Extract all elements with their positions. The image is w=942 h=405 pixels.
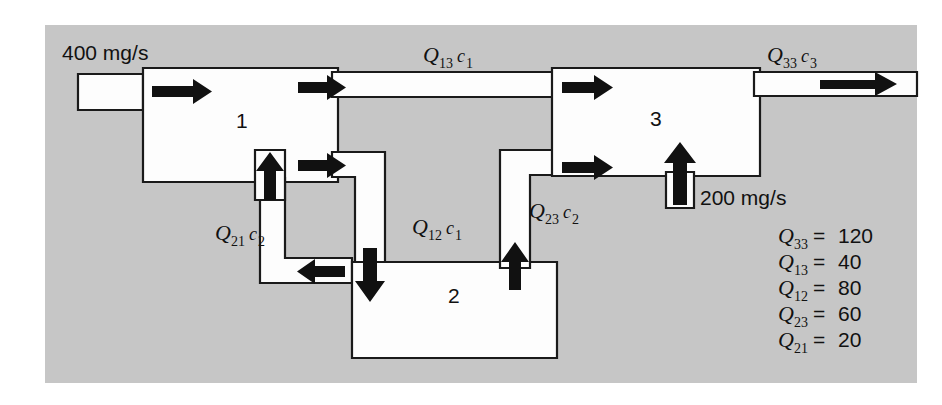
row0-subscript: 33 (794, 237, 808, 252)
row4-subscript: 21 (794, 341, 808, 356)
row3-subscript: 23 (794, 315, 808, 330)
q33-symbol: Q (767, 42, 783, 67)
q33-subscript: 33 (783, 56, 797, 71)
row1-subscript: 13 (794, 263, 808, 278)
row4-equals: = (813, 328, 825, 351)
row3-value: 60 (838, 302, 861, 325)
row0-symbol: Q (778, 223, 794, 248)
row3-equals: = (813, 302, 825, 325)
row2-equals: = (813, 276, 825, 299)
row1-symbol: Q (778, 249, 794, 274)
q21-symbol: Q (215, 220, 231, 245)
q13-c-symbol: c (457, 46, 465, 66)
q21-subscript: 21 (231, 234, 245, 249)
q23-c-symbol: c (563, 202, 571, 222)
row2-subscript: 12 (794, 289, 808, 304)
row1-value: 40 (838, 250, 861, 273)
reactor1-number: 1 (236, 109, 248, 132)
q13-c-subscript: 1 (466, 56, 473, 71)
q33-c-subscript: 3 (810, 56, 817, 71)
reactor3-number: 3 (650, 107, 662, 130)
inflow-reactor1-label: 400 mg/s (62, 41, 148, 64)
row3-symbol: Q (778, 301, 794, 326)
q13-pipe (332, 72, 556, 97)
q33-c-symbol: c (801, 46, 809, 66)
q12-symbol: Q (412, 214, 428, 239)
q23-subscript: 23 (545, 212, 559, 227)
reactor2-number: 2 (448, 284, 460, 307)
row2-value: 80 (838, 276, 861, 299)
q12-c-symbol: c (446, 218, 454, 238)
q12-subscript: 12 (428, 228, 442, 243)
row0-equals: = (813, 224, 825, 247)
q12-c-subscript: 1 (455, 228, 462, 243)
q23-symbol: Q (529, 198, 545, 223)
reactor2-tank (352, 262, 557, 358)
q21-c-subscript: 2 (258, 234, 265, 249)
row2-symbol: Q (778, 275, 794, 300)
row4-value: 20 (838, 328, 861, 351)
q13-subscript: 13 (439, 56, 453, 71)
row0-value: 120 (838, 224, 873, 247)
figure-page: 400 mg/s 200 mg/s 1 2 3 Q 13 c 1 Q 33 c … (0, 0, 942, 405)
q21-c-symbol: c (249, 224, 257, 244)
inflow-reactor3-label: 200 mg/s (700, 186, 786, 209)
q13-symbol: Q (423, 42, 439, 67)
reactor1-inlet-pipe (78, 74, 143, 110)
q23-c-subscript: 2 (572, 212, 579, 227)
row4-symbol: Q (778, 327, 794, 352)
row1-equals: = (813, 250, 825, 273)
reactor-network-diagram: 400 mg/s 200 mg/s 1 2 3 Q 13 c 1 Q 33 c … (0, 0, 942, 405)
